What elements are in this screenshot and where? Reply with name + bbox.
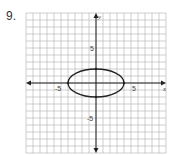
ellipse-vertex-point	[95, 96, 97, 98]
y-tick-label: 5	[90, 45, 94, 52]
x-axis-left-arrow-icon	[26, 81, 31, 86]
x-tick-label: -5	[55, 85, 61, 92]
ellipse-vertex-point	[123, 82, 125, 84]
coordinate-plane: x y -555-5	[0, 0, 173, 155]
labels: x y -555-5	[55, 13, 167, 122]
x-tick-label: 5	[132, 85, 136, 92]
ellipse-vertex-point	[67, 82, 69, 84]
y-tick-label: -5	[87, 115, 93, 122]
y-axis-down-arrow-icon	[94, 148, 99, 153]
ellipse-vertex-point	[95, 68, 97, 70]
